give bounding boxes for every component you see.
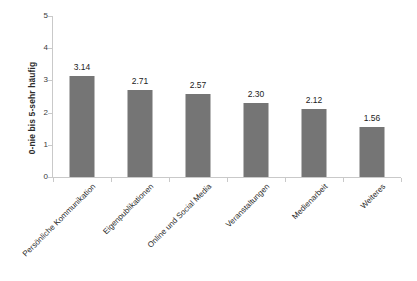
bar-chart: 0-nie bis 5-sehr häufig 012345 3.142.712… xyxy=(0,0,417,281)
bar-group: 2.71 xyxy=(111,16,169,177)
y-tick-label: 5 xyxy=(32,12,48,20)
y-tick-mark xyxy=(48,48,52,49)
y-tick-label: 2 xyxy=(32,109,48,117)
bar-value-label: 2.71 xyxy=(132,76,149,86)
bar-group: 3.14 xyxy=(53,16,111,177)
x-category-label: Online und Social Media xyxy=(146,182,214,250)
x-tick-mark xyxy=(169,178,170,182)
bar-value-label: 2.57 xyxy=(190,80,207,90)
x-tick-mark xyxy=(53,178,54,182)
bar-value-label: 2.12 xyxy=(306,95,323,105)
y-tick-label: 0 xyxy=(32,173,48,181)
x-category-label: Medienarbeit xyxy=(290,182,329,221)
y-tick-mark xyxy=(48,80,52,81)
bar[interactable] xyxy=(244,103,269,177)
x-tick-mark xyxy=(111,178,112,182)
bar-value-label: 1.56 xyxy=(364,113,381,123)
x-category-label: Veranstaltungen xyxy=(224,182,271,229)
bar[interactable] xyxy=(302,109,327,177)
y-tick-mark xyxy=(48,113,52,114)
bar[interactable] xyxy=(186,94,211,177)
bar[interactable] xyxy=(128,90,153,177)
bar-value-label: 3.14 xyxy=(74,62,91,72)
bar-value-label: 2.30 xyxy=(248,89,265,99)
y-tick-label: 4 xyxy=(32,44,48,52)
x-tick-mark xyxy=(343,178,344,182)
x-tick-mark xyxy=(285,178,286,182)
y-tick-mark xyxy=(48,177,52,178)
bar[interactable] xyxy=(360,127,385,177)
bar-group: 1.56 xyxy=(343,16,401,177)
bar[interactable] xyxy=(70,76,95,177)
x-category-label: Weiteres xyxy=(359,182,388,211)
bar-group: 2.12 xyxy=(285,16,343,177)
bar-group: 2.30 xyxy=(227,16,285,177)
x-category-label: Eigenpublikationen xyxy=(101,182,155,236)
bar-group: 2.57 xyxy=(169,16,227,177)
y-tick-label: 3 xyxy=(32,76,48,84)
y-tick-mark xyxy=(48,145,52,146)
y-tick-mark xyxy=(48,16,52,17)
y-tick-label: 1 xyxy=(32,141,48,149)
plot-area: 3.142.712.572.302.121.56 xyxy=(53,16,401,177)
x-tick-mark xyxy=(227,178,228,182)
x-tick-mark xyxy=(401,178,402,182)
